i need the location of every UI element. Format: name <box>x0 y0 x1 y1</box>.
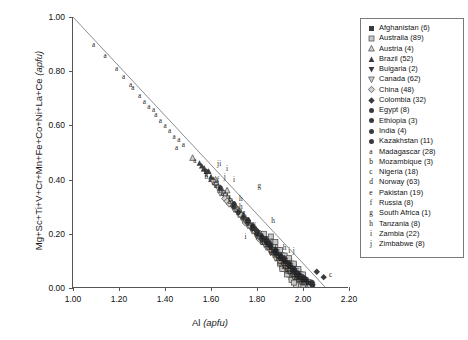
x-tick <box>211 287 212 291</box>
data-point: a <box>143 98 147 106</box>
legend-item[interactable]: ePakistan (19) <box>363 188 461 198</box>
legend-marker: g <box>363 208 379 218</box>
legend-item[interactable]: Colombia (32) <box>363 95 461 105</box>
y-tick <box>69 17 73 18</box>
data-point: i <box>300 271 302 279</box>
legend-box: Afghanistan (6)Australia (89)Austria (4)… <box>360 18 464 258</box>
legend-letter-marker: e <box>369 188 372 198</box>
legend-marker: j <box>363 239 379 249</box>
data-point: c <box>329 271 332 279</box>
legend-item[interactable]: iZambia (22) <box>363 229 461 239</box>
data-point: a <box>177 136 181 144</box>
legend-label: South Africa (1) <box>379 208 431 218</box>
data-point: i <box>277 249 279 257</box>
legend-item[interactable]: dNorway (63) <box>363 177 461 187</box>
data-point: d <box>246 217 250 225</box>
x-tick-label: 1.40 <box>157 294 174 304</box>
legend-item[interactable]: Bulgaria (2) <box>363 64 461 74</box>
legend-marker: h <box>363 219 379 229</box>
legend-marker: b <box>363 157 379 167</box>
x-tick-label: 1.80 <box>249 294 266 304</box>
legend-marker <box>363 116 379 126</box>
data-point: h <box>283 244 287 252</box>
x-tick <box>349 287 350 291</box>
data-point: i <box>293 266 295 274</box>
legend-letter-marker: c <box>369 167 372 177</box>
data-point <box>321 274 327 280</box>
legend-marker-filled-square <box>367 24 376 33</box>
data-point: j <box>264 239 267 247</box>
data-point <box>273 239 278 244</box>
x-tick-label: 1.00 <box>65 294 82 304</box>
data-point: d <box>255 233 259 241</box>
legend-letter-marker: d <box>369 177 373 187</box>
legend-label: Australia (89) <box>379 33 424 43</box>
x-tick-label: 1.20 <box>111 294 128 304</box>
data-point <box>369 26 374 31</box>
legend-item[interactable]: hTanzania (8) <box>363 219 461 229</box>
legend-label: Bulgaria (2) <box>379 64 418 74</box>
legend-label: Brazil (52) <box>379 54 413 64</box>
scatter-plot-figure: aaaaaaaaaaaaaaaaaaaaaaaaaaaabbbccccccccc… <box>0 0 468 340</box>
y-tick <box>69 71 73 72</box>
legend-item[interactable]: Afghanistan (6) <box>363 23 461 33</box>
data-point: h <box>271 217 275 225</box>
legend-item[interactable]: Kazakhstan (11) <box>363 136 461 146</box>
legend-label: Egypt (8) <box>379 105 409 115</box>
legend-item[interactable]: Australia (89) <box>363 33 461 43</box>
legend-label: Zimbabwe (8) <box>379 239 425 249</box>
legend-item[interactable]: Ethiopia (3) <box>363 116 461 126</box>
data-point: a <box>193 157 197 165</box>
data-point <box>314 269 320 275</box>
series-zambia: iiiiiiiiiiiiiiiiiiiiii <box>219 160 306 285</box>
legend-item[interactable]: jZimbabwe (8) <box>363 239 461 249</box>
legend-item[interactable]: gSouth Africa (1) <box>363 208 461 218</box>
data-point: j <box>216 160 219 168</box>
data-point: i <box>254 228 256 236</box>
legend-item[interactable]: cNigeria (18) <box>363 167 461 177</box>
legend-marker-filled-inv-triangle <box>367 65 376 74</box>
plot-area: aaaaaaaaaaaaaaaaaaaaaaaaaaaabbbccccccccc… <box>72 17 348 288</box>
x-tick <box>257 287 258 291</box>
plot-svg: aaaaaaaaaaaaaaaaaaaaaaaaaaaabbbccccccccc… <box>73 17 348 287</box>
data-point: a <box>104 52 108 60</box>
legend-item[interactable]: Canada (62) <box>363 74 461 84</box>
legend-marker <box>363 85 379 95</box>
legend-label: Ethiopia (3) <box>379 116 417 126</box>
legend-item[interactable]: China (48) <box>363 85 461 95</box>
y-tick <box>69 125 73 126</box>
legend-marker: e <box>363 188 379 198</box>
legend-item[interactable]: aMadagascar (28) <box>363 147 461 157</box>
legend-marker <box>363 54 379 64</box>
legend-letter-marker: j <box>370 239 372 249</box>
legend-label: Nigeria (18) <box>379 167 418 177</box>
data-point: i <box>270 241 272 249</box>
legend-marker-open-triangle <box>367 44 376 53</box>
legend-item[interactable]: bMozambique (3) <box>363 157 461 167</box>
legend-item[interactable]: Austria (4) <box>363 44 461 54</box>
legend-marker <box>363 95 379 105</box>
data-point: a <box>159 117 163 125</box>
data-point <box>368 46 374 52</box>
data-point: j <box>292 247 295 255</box>
legend-marker <box>363 23 379 33</box>
legend-label: Canada (62) <box>379 74 421 84</box>
data-point: a <box>147 103 151 111</box>
legend-letter-marker: f <box>370 198 372 208</box>
legend-item[interactable]: fRussia (8) <box>363 198 461 208</box>
legend-marker <box>363 136 379 146</box>
legend-label: Colombia (32) <box>379 95 426 105</box>
legend-item[interactable]: Brazil (52) <box>363 54 461 64</box>
y-tick <box>69 288 73 289</box>
legend-letter-marker: a <box>369 147 372 157</box>
x-tick <box>303 287 304 291</box>
legend-label: Pakistan (19) <box>379 188 423 198</box>
legend-marker <box>363 33 379 43</box>
legend-item[interactable]: Egypt (8) <box>363 105 461 115</box>
data-point <box>369 139 374 144</box>
legend-marker-filled-circle <box>367 106 376 115</box>
data-point: i <box>245 233 247 241</box>
data-point: b <box>205 173 209 181</box>
legend-marker-open-diamond <box>367 85 376 94</box>
legend-item[interactable]: India (4) <box>363 126 461 136</box>
